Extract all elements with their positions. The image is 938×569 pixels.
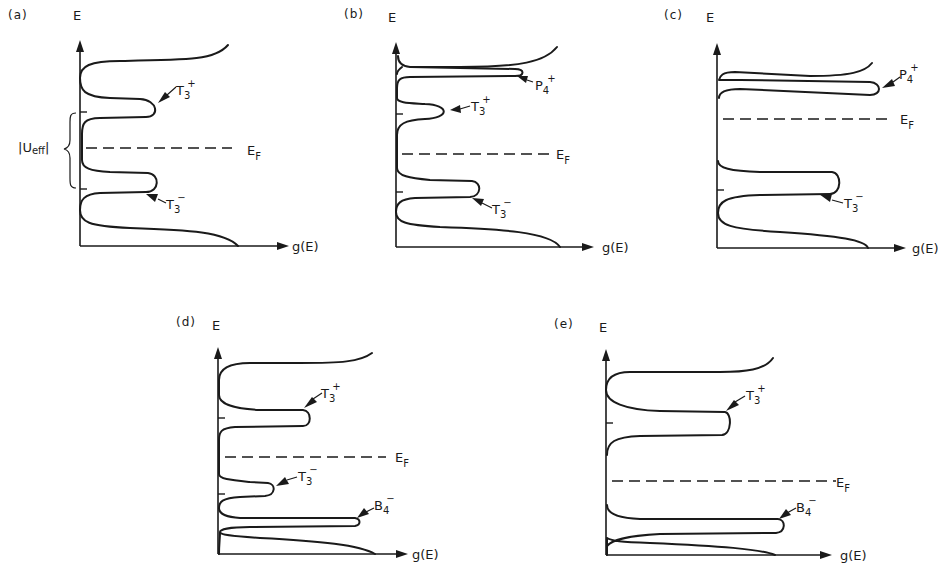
leader-line	[832, 200, 843, 203]
state-label-B4-minus: B4−	[796, 495, 817, 518]
fermi-label: EF	[556, 147, 570, 166]
y-axis-label: E	[706, 10, 714, 25]
x-axis-label: g(E)	[840, 548, 867, 563]
panel-e: (e) E g(E) EF T3+ B4−	[554, 317, 867, 563]
arrow-pointer-icon	[304, 397, 317, 408]
panel-d: (d) E g(E) EF T3+ T3− B4−	[176, 315, 439, 562]
x-axis-label: g(E)	[602, 240, 629, 255]
leader-line	[287, 477, 297, 480]
state-label-T3-minus: T3−	[297, 464, 318, 487]
arrow-right-icon	[277, 242, 289, 250]
arrow-up-icon	[214, 347, 222, 359]
state-label-T3-plus: T3+	[745, 383, 766, 406]
leader-line	[735, 396, 745, 402]
fermi-label: EF	[900, 112, 914, 131]
y-axis-label: E	[212, 318, 220, 333]
state-label-P4-plus: P4+	[535, 73, 556, 96]
dos-figure: (a) E g(E) EF T3+ T3− |Ueff| (b) E	[0, 0, 938, 569]
arrow-up-icon	[602, 349, 610, 361]
arrow-right-icon	[820, 551, 832, 559]
dos-curve-c	[718, 63, 879, 248]
u-eff-label: |Ueff|	[18, 140, 49, 156]
arrow-pointer-icon	[450, 105, 461, 113]
x-axis-label: g(E)	[292, 239, 319, 254]
state-label-T3-minus: T3−	[165, 192, 186, 215]
state-label-T3-plus: T3+	[470, 94, 491, 117]
leader-line	[167, 87, 176, 95]
arrow-pointer-icon	[819, 194, 832, 202]
y-axis-label: E	[388, 10, 396, 25]
fermi-label: EF	[247, 143, 261, 162]
arrow-up-icon	[713, 43, 721, 55]
state-label-T3-plus: T3+	[320, 381, 341, 404]
arrow-pointer-icon	[276, 477, 289, 486]
arrow-pointer-icon	[726, 400, 739, 411]
panel-b: (b) E g(E) EF P4+ T3+ T3−	[344, 7, 629, 255]
arrow-pointer-icon	[779, 509, 791, 519]
dos-curve-b	[396, 47, 560, 247]
arrow-right-icon	[894, 244, 906, 252]
panel-label-b: (b)	[344, 7, 364, 21]
leader-line	[460, 106, 470, 109]
arrow-right-icon	[582, 243, 594, 251]
panel-label-c: (c)	[664, 8, 683, 22]
panel-label-d: (d)	[176, 315, 196, 329]
arrow-right-icon	[396, 550, 408, 558]
x-axis-label: g(E)	[412, 547, 439, 562]
dos-curve-d	[219, 353, 375, 554]
state-label-T3-minus: T3−	[491, 197, 512, 220]
panel-label-e: (e)	[554, 317, 574, 331]
brace	[64, 113, 76, 188]
leader-line	[527, 80, 533, 82]
y-axis-label: E	[599, 320, 607, 335]
x-axis-label: g(E)	[912, 241, 938, 256]
arrow-pointer-icon	[517, 76, 528, 83]
arrow-pointer-icon	[146, 194, 158, 202]
panel-c: (c) E g(E) EF P4+ T3−	[664, 8, 938, 256]
leader-line	[482, 203, 492, 208]
state-label-B4-minus: B4−	[374, 493, 395, 516]
y-axis-label: E	[73, 8, 81, 23]
leader-line	[366, 508, 374, 512]
fermi-label: EF	[836, 475, 850, 494]
arrow-pointer-icon	[357, 508, 369, 518]
arrow-pointer-icon	[472, 198, 484, 206]
fermi-label: EF	[395, 450, 409, 469]
panel-a: (a) E g(E) EF T3+ T3− |Ueff|	[8, 8, 319, 254]
leader-line	[158, 199, 166, 203]
arrow-up-icon	[392, 42, 400, 54]
state-label-P4-plus: P4+	[899, 62, 919, 85]
arrow-pointer-icon	[882, 79, 895, 88]
state-label-T3-plus: T3+	[175, 78, 196, 101]
panel-label-a: (a)	[8, 8, 28, 22]
dos-curve-a	[80, 45, 238, 246]
arrow-up-icon	[76, 40, 84, 52]
state-label-T3-minus: T3−	[843, 191, 864, 214]
